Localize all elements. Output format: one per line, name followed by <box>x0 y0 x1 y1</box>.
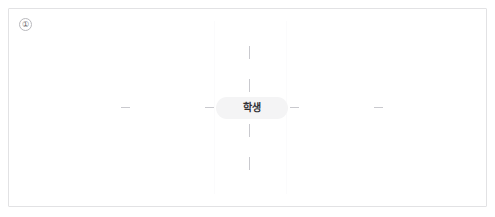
mindmap-root-node-label: 학생 <box>243 103 261 113</box>
connector-down-outer <box>249 157 250 170</box>
connector-up-outer <box>249 46 250 59</box>
mindmap-canvas[interactable]: ① 학생 <box>8 8 487 207</box>
mindmap-stage[interactable]: 학생 <box>9 9 486 206</box>
mindmap-root-node[interactable]: 학생 <box>216 97 288 119</box>
connector-right-outer <box>374 107 383 108</box>
connector-left-outer <box>121 107 130 108</box>
guide-column-left <box>214 21 215 194</box>
connector-up-inner <box>249 79 250 92</box>
connector-down-inner <box>249 124 250 137</box>
connector-left-inner <box>205 107 214 108</box>
connector-right-inner <box>290 107 299 108</box>
